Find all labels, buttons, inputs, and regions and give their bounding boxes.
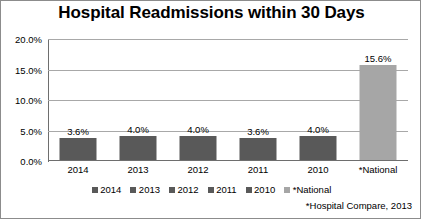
- bar-slot: 15.6%: [348, 38, 408, 160]
- bar-value-label: 15.6%: [365, 53, 392, 64]
- legend-swatch-icon: [92, 187, 98, 193]
- bar: [120, 136, 157, 160]
- x-axis-category-label: 2014: [48, 164, 108, 175]
- chart-legend: 20142013201220112010*National: [1, 184, 421, 195]
- bar: [180, 136, 217, 160]
- legend-label: 2012: [178, 184, 199, 195]
- bar-slot: 4.0%: [168, 38, 228, 160]
- bar-value-label: 4.0%: [127, 124, 149, 135]
- x-axis-category-label: *National: [348, 164, 408, 175]
- x-axis-category-label: 2011: [228, 164, 288, 175]
- bar-value-label: 4.0%: [307, 124, 329, 135]
- legend-item[interactable]: 2013: [130, 184, 160, 195]
- bar-slot: 3.6%: [48, 38, 108, 160]
- y-axis-tick-label: 15.0%: [0, 64, 42, 75]
- legend-item[interactable]: 2010: [246, 184, 276, 195]
- legend-item[interactable]: 2011: [208, 184, 237, 195]
- bar-slot: 4.0%: [288, 38, 348, 160]
- bar-value-label: 3.6%: [247, 126, 269, 137]
- chart-container: Hospital Readmissions within 30 Days 20.…: [0, 0, 421, 219]
- legend-swatch-icon: [246, 187, 252, 193]
- legend-item[interactable]: *National: [284, 184, 331, 195]
- x-axis-category-label: 2012: [168, 164, 228, 175]
- bar: [240, 138, 277, 160]
- bar-slot: 4.0%: [108, 38, 168, 160]
- y-axis-tick-label: 20.0%: [0, 34, 42, 45]
- bar-slot: 3.6%: [228, 38, 288, 160]
- legend-swatch-icon: [208, 187, 214, 193]
- bar: [360, 65, 397, 160]
- legend-label: *National: [293, 184, 332, 195]
- footnote: *Hospital Compare, 2013: [306, 200, 412, 211]
- legend-swatch-icon: [130, 187, 136, 193]
- legend-label: 2010: [254, 184, 275, 195]
- bar: [60, 138, 97, 160]
- y-axis-tick-label: 0.0%: [0, 156, 42, 167]
- x-axis-category-label: 2010: [288, 164, 348, 175]
- x-axis-baseline: [48, 160, 408, 161]
- bar-value-label: 4.0%: [187, 124, 209, 135]
- x-axis-category-label: 2013: [108, 164, 168, 175]
- plot-area: 3.6%4.0%4.0%3.6%4.0%15.6%: [48, 39, 408, 161]
- legend-item[interactable]: 2012: [169, 184, 199, 195]
- legend-swatch-icon: [284, 187, 290, 193]
- y-axis-tick-label: 10.0%: [0, 95, 42, 106]
- legend-swatch-icon: [169, 187, 175, 193]
- legend-label: 2014: [100, 184, 121, 195]
- legend-label: 2011: [216, 184, 236, 195]
- chart-title: Hospital Readmissions within 30 Days: [1, 3, 421, 23]
- legend-label: 2013: [139, 184, 160, 195]
- legend-item[interactable]: 2014: [92, 184, 122, 195]
- y-axis-tick-label: 5.0%: [0, 125, 42, 136]
- bar-value-label: 3.6%: [67, 126, 89, 137]
- bar: [300, 136, 337, 160]
